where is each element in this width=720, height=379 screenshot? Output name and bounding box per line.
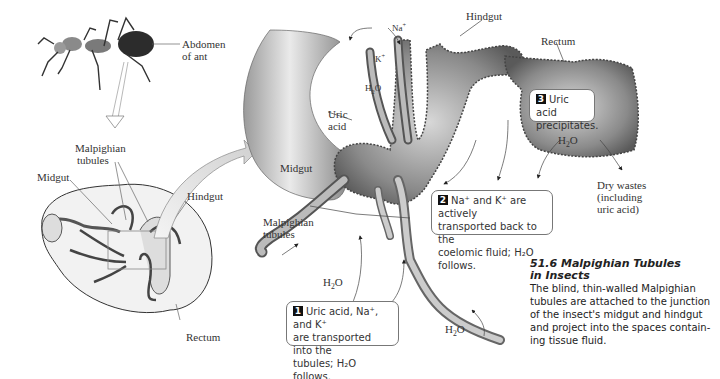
label-abdomen: Abdomenof ant [182,38,225,62]
caption-body: The blind, thin-walled Malpighian tubule… [530,282,720,347]
caption-title: 51.6 Malpighian Tubules in Insects [530,258,720,282]
label-h2o-bottom-right: H2O [445,323,465,335]
label-malpighian-left: Malpighiantubules [75,142,126,166]
gut-overview-illustration [42,140,256,320]
label-na: Na+ [392,22,406,34]
callout-step-2: 2Na⁺ and K⁺ are actively transported bac… [431,190,553,235]
label-rectum-right: Rectum [541,35,575,47]
step-number-badge: 2 [438,195,448,205]
label-malpighian-right: Malpighiantubules [263,216,314,240]
callout-step-3: 3Uric acid precipitates. [529,89,595,122]
label-rectum-left: Rectum [186,331,220,343]
step-number-badge: 3 [536,94,546,104]
ant-illustration [38,18,180,128]
label-k: K+ [375,53,385,65]
label-midgut-left: Midgut [37,171,69,183]
callout-step-1: 1Uric acid, Na⁺, and K⁺ are transported … [286,301,399,346]
label-dry-wastes: Dry wastes(includinguric acid) [597,179,646,215]
label-h2o-rectum: H2O [558,134,578,146]
label-hindgut-left: Hindgut [187,190,223,202]
label-h2o-top: H2O [365,82,381,94]
figure-caption: 51.6 Malpighian Tubules in Insects The b… [530,258,720,347]
step-number-badge: 1 [293,306,303,316]
label-h2o-bottom-left: H2O [323,276,343,288]
label-midgut-right: Midgut [280,162,312,174]
label-hindgut-right: Hindgut [466,10,502,22]
label-uric-acid: Uricacid [328,108,348,132]
